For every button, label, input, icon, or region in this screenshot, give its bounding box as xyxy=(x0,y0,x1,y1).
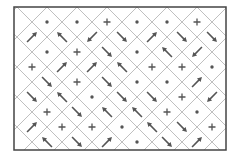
arrow-icon xyxy=(25,90,39,104)
arrow-icon xyxy=(100,135,114,149)
dot-icon xyxy=(135,50,138,53)
grid-line xyxy=(0,0,239,140)
arrow-icon xyxy=(85,60,99,74)
dot-icon xyxy=(45,50,48,53)
arrow-icon xyxy=(205,90,219,104)
grid-line xyxy=(0,74,239,160)
lattice-svg xyxy=(0,0,239,160)
plus-icon xyxy=(104,19,111,26)
arrow-icon xyxy=(25,30,39,44)
arrow-icon xyxy=(100,105,114,119)
grid-line xyxy=(0,0,239,80)
arrow-icon xyxy=(190,45,204,59)
arrow-icon xyxy=(160,135,174,149)
arrow-icon xyxy=(70,105,84,119)
arrow-icon xyxy=(55,60,69,74)
dot-icon xyxy=(165,80,168,83)
arrow-icon xyxy=(100,75,114,89)
dot-icon xyxy=(120,125,123,128)
dot-icon xyxy=(165,20,168,23)
plus-icon xyxy=(59,124,66,131)
plus-icon xyxy=(179,64,186,71)
arrow-icon xyxy=(55,90,69,104)
grid-line xyxy=(0,0,239,54)
dot-icon xyxy=(75,20,78,23)
grid-line xyxy=(0,110,239,160)
arrow-icon xyxy=(145,30,159,44)
plus-icon xyxy=(29,64,36,71)
arrow-icon xyxy=(25,120,39,134)
plus-icon xyxy=(74,79,81,86)
arrow-icon xyxy=(145,90,159,104)
arrow-icon xyxy=(40,75,54,89)
dot-icon xyxy=(45,20,48,23)
grid-line xyxy=(0,20,239,160)
arrow-icon xyxy=(190,135,204,149)
plus-icon xyxy=(194,19,201,26)
arrow-icon xyxy=(40,135,54,149)
arrow-icon xyxy=(145,120,159,134)
plus-icon xyxy=(209,124,216,131)
plus-icon xyxy=(74,49,81,56)
arrow-icon xyxy=(85,30,99,44)
arrow-icon xyxy=(115,60,129,74)
arrow-icon xyxy=(205,30,219,44)
plus-icon xyxy=(179,94,186,101)
arrow-icon xyxy=(130,105,144,119)
plus-icon xyxy=(89,124,96,131)
arrow-icon xyxy=(55,30,69,44)
cell-symbols xyxy=(25,19,219,149)
dot-icon xyxy=(210,65,213,68)
arrow-icon xyxy=(115,30,129,44)
plus-icon xyxy=(149,64,156,71)
dot-icon xyxy=(135,80,138,83)
arrow-icon xyxy=(115,90,129,104)
plus-icon xyxy=(44,109,51,116)
grid-line xyxy=(0,0,239,114)
grid-line xyxy=(0,0,239,24)
dot-icon xyxy=(195,110,198,113)
lattice-diagram xyxy=(0,0,239,160)
arrow-icon xyxy=(175,120,189,134)
diamond-grid xyxy=(0,0,239,160)
arrow-icon xyxy=(190,75,204,89)
dot-icon xyxy=(90,95,93,98)
grid-line xyxy=(0,80,239,160)
dot-icon xyxy=(135,20,138,23)
grid-line xyxy=(0,0,239,20)
arrow-icon xyxy=(100,45,114,59)
grid-line xyxy=(0,104,239,160)
grid-line xyxy=(0,50,239,160)
plus-icon xyxy=(164,109,171,116)
dot-icon xyxy=(135,140,138,143)
arrow-icon xyxy=(160,45,174,59)
arrow-icon xyxy=(175,30,189,44)
arrow-icon xyxy=(70,135,84,149)
